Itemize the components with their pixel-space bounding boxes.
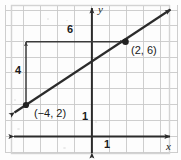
paper-speck	[63, 147, 66, 149]
paper-speck	[150, 56, 152, 58]
coordinate-plane-svg	[0, 0, 181, 160]
paper-speck	[66, 20, 68, 21]
x-axis-label: x	[166, 141, 171, 152]
graph-figure: 6 4 (−4, 2) (2, 6) 1 1 y x	[0, 0, 181, 160]
paper-speck	[95, 121, 97, 123]
paper-speck	[47, 18, 49, 20]
rise-label: 4	[15, 65, 21, 76]
point-b-label: (2, 6)	[131, 45, 157, 56]
data-point-b	[122, 38, 129, 45]
run-label: 6	[67, 24, 73, 35]
y-unit-label: 1	[82, 111, 88, 122]
paper-speck	[14, 99, 16, 101]
paper-speck	[17, 128, 20, 130]
y-axis-label: y	[98, 4, 103, 15]
point-a-label: (−4, 2)	[34, 108, 66, 119]
x-unit-label: 1	[104, 139, 110, 150]
data-point-a	[23, 102, 29, 108]
